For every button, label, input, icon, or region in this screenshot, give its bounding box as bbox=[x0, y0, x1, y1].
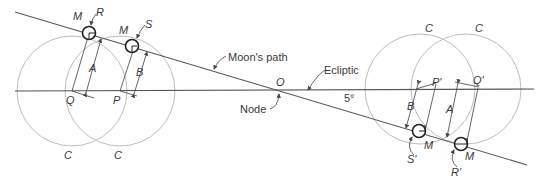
label-angle: 5° bbox=[344, 92, 355, 104]
label-moon-r-prime: M bbox=[465, 150, 475, 162]
label-s-prime: S' bbox=[407, 153, 417, 165]
label-b-right: B bbox=[407, 100, 414, 112]
label-moon-s-prime: M bbox=[424, 139, 434, 151]
label-r-prime: R' bbox=[451, 166, 462, 178]
pointer-node-arrow bbox=[270, 94, 279, 109]
pointer-ecliptic-arrow bbox=[308, 70, 325, 90]
label-r: R bbox=[96, 6, 104, 18]
eclipse-diagram: M R M S A B Q P C C Moon's path O Eclipt… bbox=[0, 0, 542, 184]
q-to-moon-r-line bbox=[72, 37, 88, 91]
label-p: P bbox=[113, 94, 121, 106]
pointer-moons-path-arrow bbox=[214, 56, 226, 69]
label-b-left: B bbox=[136, 66, 143, 78]
label-moon-s: M bbox=[119, 24, 129, 36]
label-ecliptic: Ecliptic bbox=[324, 64, 359, 76]
p-prime-to-moon-s-prime bbox=[425, 84, 436, 131]
label-q: Q bbox=[66, 94, 75, 106]
label-node-point: O bbox=[276, 76, 285, 88]
label-moon-r: M bbox=[73, 10, 83, 22]
pointer-s-arrow bbox=[137, 25, 145, 38]
moon-r-prime bbox=[455, 138, 468, 151]
label-q-prime: Q' bbox=[473, 74, 485, 86]
moon-s-prime bbox=[413, 125, 426, 138]
moon-s bbox=[126, 40, 139, 53]
label-moons-path: Moon's path bbox=[228, 51, 288, 63]
label-c-3: C bbox=[425, 22, 433, 34]
moon-r bbox=[83, 27, 96, 40]
label-s: S bbox=[145, 18, 153, 30]
label-c-4: C bbox=[475, 22, 483, 34]
label-a-left: A bbox=[88, 62, 96, 74]
label-p-prime: P' bbox=[432, 76, 442, 88]
label-c-1: C bbox=[64, 149, 72, 161]
q-tick bbox=[72, 91, 94, 98]
pointer-r-prime-arrow bbox=[452, 150, 457, 167]
label-c-2: C bbox=[114, 149, 122, 161]
label-a-right: A bbox=[445, 103, 453, 115]
label-node: Node bbox=[240, 103, 266, 115]
